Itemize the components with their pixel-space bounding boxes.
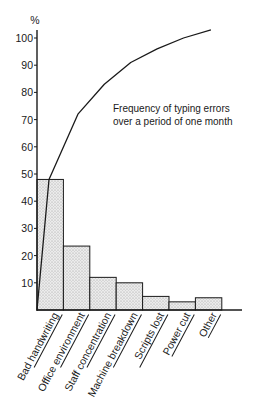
y-axis: 102030405060708090100% [15, 14, 39, 311]
y-tick-label: 10 [21, 277, 33, 289]
y-axis-unit: % [30, 14, 39, 26]
annotation-line: over a period of one month [113, 116, 233, 127]
y-tick-label: 50 [21, 168, 33, 180]
y-tick-label: 30 [21, 222, 33, 234]
annotation-line: Frequency of typing errors [113, 103, 230, 114]
bar-series [37, 179, 222, 310]
pareto-chart: 102030405060708090100% Bad handwritingOf… [0, 0, 257, 420]
y-tick-label: 100 [15, 32, 33, 44]
chart-annotation: Frequency of typing errorsover a period … [113, 103, 233, 127]
bar-4 [143, 296, 169, 310]
y-tick-label: 20 [21, 250, 33, 262]
bar-5 [169, 302, 195, 310]
bar-2 [90, 277, 116, 310]
bar-0 [37, 179, 63, 310]
category-label-group: Other [196, 308, 221, 339]
y-tick-label: 60 [21, 141, 33, 153]
bar-3 [116, 283, 142, 310]
y-tick-label: 80 [21, 86, 33, 98]
category-labels: Bad handwritingOffice environmentStaff c… [15, 308, 221, 399]
bar-6 [195, 298, 221, 310]
y-tick-label: 90 [21, 59, 33, 71]
y-tick-label: 40 [21, 195, 33, 207]
bar-1 [63, 246, 89, 310]
y-tick-label: 70 [21, 114, 33, 126]
